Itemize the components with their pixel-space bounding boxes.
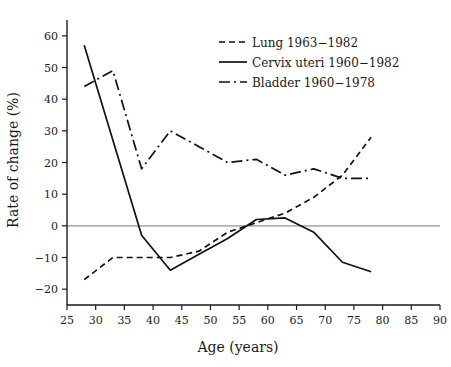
legend-label-1: Cervix uteri 1960−1982 <box>252 56 399 70</box>
y-tick-label: 30 <box>44 125 58 138</box>
figure-container: −20−100102030405060 25303540455055606570… <box>0 0 451 367</box>
x-tick-label: 45 <box>175 314 189 327</box>
x-tick-label: 70 <box>318 314 332 327</box>
y-axis: −20−100102030405060 <box>35 20 67 305</box>
x-tick-label: 25 <box>60 314 74 327</box>
line-chart: −20−100102030405060 25303540455055606570… <box>0 0 451 367</box>
x-tick-label: 30 <box>89 314 103 327</box>
x-tick-label: 90 <box>433 314 447 327</box>
x-tick-label: 40 <box>146 314 160 327</box>
x-tick-label: 50 <box>203 314 217 327</box>
x-tick-label: 85 <box>404 314 418 327</box>
x-tick-label: 65 <box>290 314 304 327</box>
x-axis-ticks: 2530354045505560657075808590 <box>60 305 447 327</box>
chart-legend: Lung 1963−1982Cervix uteri 1960−1982Blad… <box>219 36 399 90</box>
series-line-0 <box>84 137 371 280</box>
y-tick-label: 20 <box>44 157 58 170</box>
y-tick-label: 60 <box>44 30 58 43</box>
x-axis-title: Age (years) <box>196 339 278 355</box>
y-tick-label: −10 <box>35 252 58 265</box>
x-tick-label: 60 <box>261 314 275 327</box>
x-axis: 2530354045505560657075808590 <box>60 305 447 327</box>
legend-label-2: Bladder 1960−1978 <box>252 76 375 90</box>
x-tick-label: 80 <box>376 314 390 327</box>
y-tick-label: −20 <box>35 283 58 296</box>
y-tick-label: 10 <box>44 188 58 201</box>
y-tick-label: 40 <box>44 93 58 106</box>
y-tick-label: 0 <box>51 220 58 233</box>
legend-label-0: Lung 1963−1982 <box>252 36 358 50</box>
x-tick-label: 55 <box>232 314 246 327</box>
x-tick-label: 35 <box>117 314 131 327</box>
y-tick-label: 50 <box>44 62 58 75</box>
x-tick-label: 75 <box>347 314 361 327</box>
y-axis-title: Rate of change (%) <box>5 92 21 228</box>
y-axis-ticks: −20−100102030405060 <box>35 30 67 296</box>
